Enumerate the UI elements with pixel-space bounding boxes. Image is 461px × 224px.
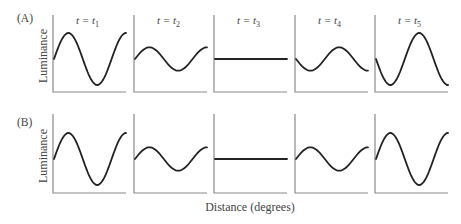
panel-a-2: [134, 15, 207, 92]
luminance-curve: [376, 133, 448, 185]
time-label-5: t = t5: [398, 14, 421, 29]
panel-b-1: [53, 114, 126, 193]
xlabel: Distance (degrees): [205, 200, 295, 214]
luminance-curve: [135, 147, 207, 170]
luminance-curve: [135, 47, 207, 70]
panel-a-5: [375, 15, 448, 92]
axes: [214, 15, 287, 92]
row-label-b: (B): [17, 116, 33, 129]
panel-a-3: [214, 15, 287, 92]
luminance-curve: [54, 133, 126, 185]
panels: [53, 15, 448, 193]
luminance-curve: [296, 147, 368, 170]
panel-a-4: [295, 15, 368, 92]
time-label-2: t = t2: [157, 14, 180, 29]
panel-b-4: [295, 114, 368, 193]
luminance-curve: [376, 33, 448, 85]
panel-b-3: [214, 114, 287, 193]
luminance-curve: [296, 47, 368, 70]
axes: [375, 114, 448, 193]
ylabel-row-a: Luminance: [36, 29, 50, 83]
axes: [214, 114, 287, 193]
luminance-curve: [54, 33, 126, 85]
time-label-4: t = t4: [318, 14, 341, 29]
time-label-3: t = t3: [237, 14, 260, 29]
row-label-a: (A): [17, 12, 33, 25]
panel-a-1: [53, 15, 126, 92]
panel-b-5: [375, 114, 448, 193]
time-label-1: t = t1: [76, 14, 99, 29]
time-labels: t = t1t = t2t = t3t = t4t = t5: [76, 14, 421, 29]
panel-b-2: [134, 114, 207, 193]
axes: [295, 15, 368, 92]
axes: [53, 15, 126, 92]
figure: (A) (B) Luminance Luminance t = t1t = t2…: [0, 0, 461, 224]
axes: [53, 114, 126, 193]
ylabel-row-b: Luminance: [36, 129, 50, 183]
